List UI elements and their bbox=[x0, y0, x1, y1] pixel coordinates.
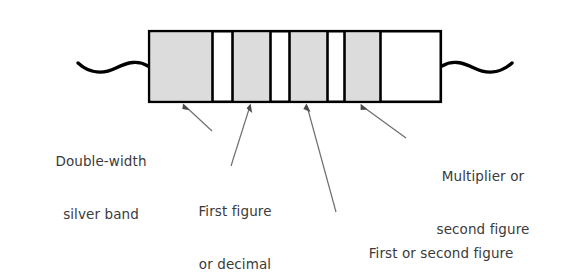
leader-double-width-silver-band bbox=[182, 104, 212, 132]
callout-line: or decimal bbox=[150, 256, 320, 273]
leader-multiplier-or-second-figure bbox=[361, 104, 406, 138]
callout-line: second figure bbox=[408, 221, 558, 239]
band-first-or-second-figure bbox=[290, 33, 327, 101]
left-lead-wire bbox=[78, 62, 148, 72]
right-lead-wire bbox=[442, 62, 512, 72]
callout-multiplier-or-second-figure: Multiplier or second figure bbox=[408, 133, 558, 273]
callout-line: First figure bbox=[150, 203, 320, 221]
band-double-width-silver bbox=[151, 33, 213, 101]
band-multiplier bbox=[345, 33, 380, 101]
callout-first-figure-or-decimal-point: First figure or decimal point (gold) bbox=[150, 168, 320, 273]
resistor-colour-band-figure: Double-width silver band First figure or… bbox=[0, 0, 565, 273]
band-first-figure bbox=[233, 33, 270, 101]
leader-first-figure-or-decimal-point bbox=[231, 104, 252, 166]
callout-line: Multiplier or bbox=[408, 168, 558, 186]
